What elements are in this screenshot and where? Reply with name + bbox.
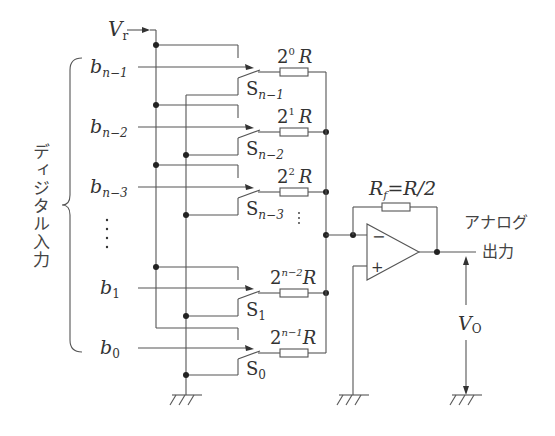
resistor-label: 2n−1R	[270, 327, 316, 348]
switch-label: S0	[246, 358, 266, 382]
resistor-label: 20R	[277, 46, 312, 67]
bit-label: b0	[100, 336, 120, 361]
resistor	[280, 289, 308, 297]
arrow-icon	[245, 184, 254, 190]
arrow-icon	[245, 64, 254, 70]
vo-label: VO	[458, 312, 482, 336]
arrow-down-icon	[463, 386, 469, 395]
resistor-label: 21R	[277, 106, 312, 127]
output-label: 出力	[482, 242, 514, 261]
ground-bus	[170, 95, 202, 405]
arrow-icon	[245, 285, 254, 291]
bit-row-0	[138, 345, 326, 378]
arrow-icon	[245, 124, 254, 130]
resistor-label: 2n−2R	[270, 267, 316, 288]
arrow-icon	[142, 27, 150, 33]
switch-label: Sn−3	[246, 198, 284, 222]
input-brace	[62, 58, 82, 352]
op-amp: − +	[337, 224, 419, 405]
switch-blade	[238, 190, 260, 198]
resistor	[280, 68, 308, 76]
bit-label: bn−1	[90, 55, 128, 80]
switch-blade	[238, 130, 260, 138]
svg-text:+: +	[371, 258, 384, 276]
resistor	[280, 349, 308, 357]
switch-blade	[238, 291, 260, 299]
vr-label: Vr	[108, 17, 128, 43]
bit-label: b1	[100, 276, 120, 301]
arrow-icon	[245, 345, 254, 351]
dac-circuit-diagram: Vr	[0, 0, 555, 436]
switch-blade	[238, 70, 260, 78]
resistor-label: 22R	[277, 166, 312, 187]
analog-label: アナログ	[464, 213, 528, 232]
bit-label: bn−3	[90, 175, 128, 200]
feedback-label: Rf=R/2	[368, 177, 436, 202]
bit-row-n-1	[138, 42, 326, 95]
svg-text:−: −	[372, 227, 385, 246]
arrow-up-icon	[463, 256, 469, 265]
output: VO アナログ 出力	[419, 213, 528, 405]
switch-label: Sn−1	[246, 78, 284, 102]
resistor	[280, 128, 308, 136]
switch-label: Sn−2	[246, 138, 284, 162]
resistor	[280, 188, 308, 196]
digital-input-label: ディジタル入力	[30, 143, 50, 269]
bit-label: bn−2	[90, 115, 128, 140]
feedback-resistor	[382, 203, 410, 211]
switch-label: S1	[246, 299, 266, 323]
